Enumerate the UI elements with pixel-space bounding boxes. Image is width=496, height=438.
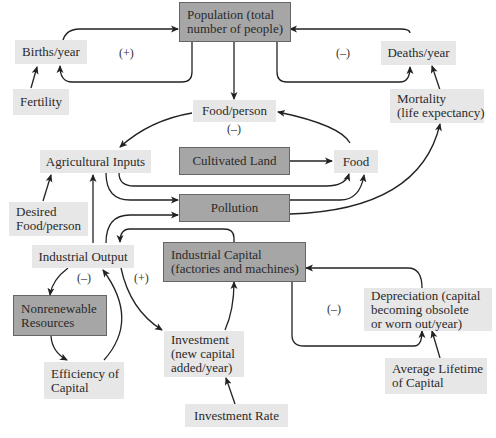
nonrenewable-label-line1: Nonrenewable	[21, 302, 97, 316]
pollution-box: Pollution	[179, 194, 290, 222]
industrial-capital-label-line2: (factories and machines)	[171, 262, 299, 276]
food-box: Food	[334, 150, 378, 173]
depreciation-label-line2: becoming obsolete	[371, 303, 469, 317]
depreciation-box: Depreciation (capital becoming obsolete …	[364, 288, 492, 331]
food-per-person-loop-polarity: (–)	[227, 122, 241, 137]
nonrenewable-resources-box: Nonrenewable Resources	[13, 295, 107, 336]
desired-label-line1: Desired	[16, 205, 56, 219]
deaths-label: Deaths/year	[387, 46, 449, 60]
investment-label-line3: added/year)	[171, 361, 232, 375]
industrial-capital-label-line1: Industrial Capital	[171, 248, 262, 262]
cultivated-land-label: Cultivated Land	[192, 154, 276, 168]
food-per-person-box: Food/person	[193, 100, 276, 122]
efficiency-label-line1: Efficiency of	[51, 367, 119, 381]
births-loop-polarity: (+)	[119, 46, 134, 61]
investment-label-line2: (new capital	[171, 347, 235, 361]
depreciation-label-line3: or worn out/year)	[371, 317, 462, 331]
fertility-label: Fertility	[20, 95, 62, 109]
deaths-box: Deaths/year	[381, 41, 456, 65]
fertility-box: Fertility	[13, 89, 69, 115]
investment-rate-box: Investment Rate	[185, 404, 288, 427]
food-label: Food	[343, 155, 370, 169]
agricultural-inputs-label: Agricultural Inputs	[46, 155, 145, 169]
population-box: Population (total number of people)	[179, 2, 291, 42]
food-per-person-label: Food/person	[202, 104, 267, 118]
system-dynamics-diagram: Population (total number of people) Cult…	[0, 0, 496, 438]
investment-label-line1: Investment	[171, 333, 229, 347]
desired-food-per-person-box: Desired Food/person	[9, 202, 88, 236]
lifetime-label-line1: Average Lifetime	[392, 362, 483, 376]
desired-label-line2: Food/person	[16, 219, 81, 233]
cultivated-land-box: Cultivated Land	[179, 147, 290, 175]
mortality-box: Mortality (life expectancy)	[390, 89, 484, 123]
resources-loop-polarity: (–)	[77, 271, 91, 286]
nonrenewable-label-line2: Resources	[21, 316, 74, 330]
pollution-label: Pollution	[211, 201, 259, 215]
population-label-line1: Population (total	[187, 8, 274, 22]
mortality-label-line2: (life expectancy)	[397, 106, 485, 120]
births-label: Births/year	[22, 45, 80, 59]
population-label-line2: number of people)	[187, 22, 283, 36]
industrial-output-label: Industrial Output	[38, 250, 127, 264]
deaths-loop-polarity: (–)	[336, 46, 350, 61]
industrial-output-box: Industrial Output	[32, 245, 134, 268]
efficiency-of-capital-box: Efficiency of Capital	[44, 362, 124, 399]
efficiency-label-line2: Capital	[51, 381, 89, 395]
investment-box: Investment (new capital added/year)	[164, 331, 244, 377]
births-box: Births/year	[15, 40, 87, 64]
investment-loop-polarity: (+)	[134, 271, 149, 286]
investment-rate-label: Investment Rate	[194, 409, 279, 423]
depreciation-loop-polarity: (–)	[327, 302, 341, 317]
lifetime-label-line2: of Capital	[392, 376, 444, 390]
average-lifetime-box: Average Lifetime of Capital	[385, 358, 487, 394]
depreciation-label-line1: Depreciation (capital	[371, 289, 480, 303]
industrial-capital-box: Industrial Capital (factories and machin…	[163, 242, 306, 282]
mortality-label-line1: Mortality	[397, 92, 446, 106]
agricultural-inputs-box: Agricultural Inputs	[40, 150, 151, 173]
